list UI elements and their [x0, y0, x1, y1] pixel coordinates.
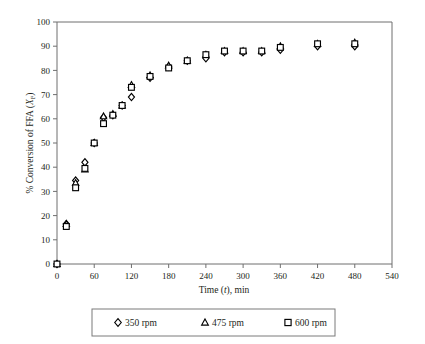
series-square: [54, 41, 358, 267]
y-tick-label: 60: [41, 114, 51, 124]
svg-text:Time (t), min: Time (t), min: [199, 285, 250, 296]
data-point: [147, 74, 153, 80]
chart-legend: 350 rpm475 rpm600 rpm: [92, 309, 335, 336]
data-point: [222, 48, 228, 54]
series-diamond: [54, 43, 358, 268]
legend-label: 350 rpm: [125, 318, 158, 328]
x-tick-label: 120: [125, 271, 139, 281]
x-tick-label: 480: [348, 271, 362, 281]
chart-figure: 0102030405060708090100 06012018024030036…: [0, 0, 425, 344]
x-tick-label: 420: [311, 271, 325, 281]
svg-text:% Conversion of FFA (XF): % Conversion of FFA (XF): [25, 92, 36, 193]
x-tick-label: 0: [55, 271, 60, 281]
data-point: [315, 41, 321, 47]
data-series-layer: [54, 39, 358, 267]
data-point: [119, 103, 125, 109]
y-tick-label: 10: [41, 235, 51, 245]
y-tick-label: 20: [41, 211, 51, 221]
y-tick-label: 0: [46, 259, 51, 269]
legend-label: 600 rpm: [295, 318, 328, 328]
y-tick-label: 40: [41, 162, 51, 172]
data-point: [73, 185, 79, 191]
data-point: [277, 45, 283, 51]
y-tick-label: 90: [41, 41, 51, 51]
data-point: [259, 48, 265, 54]
y-tick-label: 100: [37, 17, 51, 27]
data-point: [129, 84, 135, 90]
x-axis: 060120180240300360420480540: [55, 264, 400, 281]
x-tick-label: 360: [274, 271, 288, 281]
y-axis-title: % Conversion of FFA (XF): [25, 92, 36, 193]
x-tick-label: 300: [236, 271, 250, 281]
data-point: [240, 48, 246, 54]
x-tick-label: 60: [90, 271, 100, 281]
data-point: [128, 93, 134, 100]
data-point: [82, 159, 88, 166]
square-marker-icon: [285, 319, 291, 325]
scatter-plot: 0102030405060708090100 06012018024030036…: [0, 0, 425, 344]
x-tick-label: 540: [385, 271, 399, 281]
data-point: [82, 166, 88, 172]
legend-label: 475 rpm: [212, 318, 245, 328]
x-tick-label: 180: [162, 271, 176, 281]
x-tick-label: 240: [199, 271, 213, 281]
y-tick-label: 80: [41, 66, 51, 76]
data-point: [352, 41, 358, 47]
data-point: [166, 65, 172, 71]
y-axis: 0102030405060708090100: [37, 17, 58, 269]
data-point: [203, 52, 209, 58]
y-tick-label: 50: [41, 138, 51, 148]
data-point: [54, 261, 60, 267]
data-point: [101, 121, 107, 127]
series-triangle: [54, 39, 358, 266]
data-point: [63, 224, 69, 230]
data-point: [100, 113, 106, 119]
y-tick-label: 30: [41, 187, 51, 197]
plot-frame: [57, 22, 392, 264]
data-point: [110, 112, 116, 118]
x-axis-title: Time (t), min: [199, 285, 250, 296]
data-point: [184, 58, 190, 64]
data-point: [91, 140, 97, 146]
y-tick-label: 70: [41, 90, 51, 100]
